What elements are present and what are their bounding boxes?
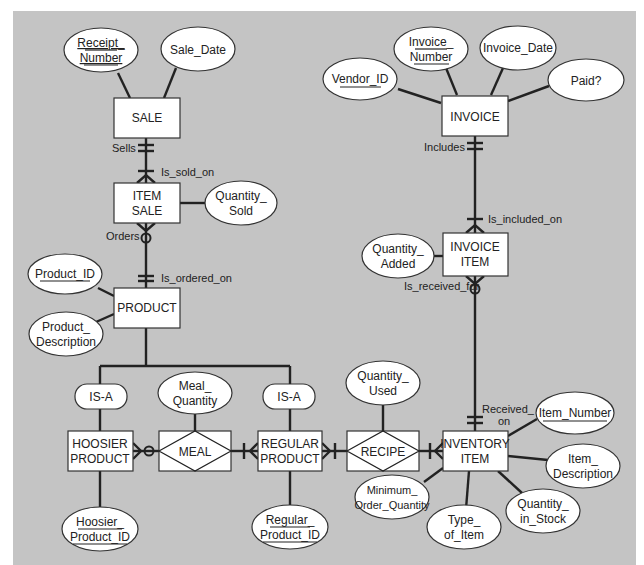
svg-text:Paid?: Paid?: [571, 74, 602, 88]
entity-sale[interactable]: SALE: [114, 98, 180, 138]
svg-text:Number: Number: [410, 50, 453, 64]
er-diagram: SALE ITEM SALE PRODUCT HOOSIER PRODUCT R…: [0, 0, 644, 565]
associative-entity-meal[interactable]: MEAL: [159, 431, 231, 471]
attribute-quantity-used[interactable]: Quantity_ Used: [346, 361, 420, 405]
svg-text:Added: Added: [381, 257, 416, 271]
svg-text:Product_ID: Product_ID: [260, 528, 320, 542]
attribute-quantity-sold[interactable]: Quantity_ Sold: [205, 181, 277, 225]
attribute-quantity-in-stock[interactable]: Quantity_ in_Stock: [506, 489, 580, 533]
label-received-on-2: on: [498, 415, 510, 427]
svg-text:INVOICE: INVOICE: [450, 240, 499, 254]
label-includes: Includes: [424, 141, 465, 153]
isa-left: IS-A: [75, 384, 127, 409]
svg-text:Product_ID: Product_ID: [35, 267, 95, 281]
label-is-sold-on: Is_sold_on: [161, 166, 214, 178]
label-is-included-on: Is_included_on: [488, 213, 562, 225]
svg-text:PRODUCT: PRODUCT: [260, 452, 320, 466]
label-orders: Orders: [106, 230, 140, 242]
entity-hoosier-product[interactable]: HOOSIER PRODUCT: [68, 431, 133, 471]
label-is-ordered-on: Is_ordered_on: [161, 272, 232, 284]
svg-text:Vendor_ID: Vendor_ID: [332, 72, 389, 86]
svg-text:ITEM: ITEM: [461, 255, 490, 269]
svg-text:Quantity_: Quantity_: [517, 497, 569, 511]
attribute-regular-product-id[interactable]: Regular_ Product_ID: [252, 505, 328, 549]
svg-text:Invoice_Date: Invoice_Date: [483, 41, 553, 55]
attribute-quantity-added[interactable]: Quantity_ Added: [362, 234, 434, 278]
label-received-on-1: Received_: [482, 403, 535, 415]
entity-invoice[interactable]: INVOICE: [442, 96, 508, 136]
svg-text:MEAL: MEAL: [179, 445, 212, 459]
attribute-product-description[interactable]: Product_ Description: [29, 312, 103, 356]
svg-text:RECIPE: RECIPE: [361, 445, 406, 459]
diagram-panel: [13, 11, 636, 565]
svg-text:Sold: Sold: [229, 204, 253, 218]
svg-text:Regular_: Regular_: [266, 513, 315, 527]
attribute-product-id[interactable]: Product_ID: [28, 254, 102, 294]
isa-right: IS-A: [263, 384, 315, 409]
svg-text:Description: Description: [553, 467, 613, 481]
svg-text:ITEM: ITEM: [133, 189, 162, 203]
attribute-item-number[interactable]: Item_Number: [536, 392, 614, 434]
svg-text:of_Item: of_Item: [444, 528, 484, 542]
svg-text:Minimum_: Minimum_: [367, 484, 419, 496]
svg-text:Item_Number: Item_Number: [539, 406, 612, 420]
svg-text:REGULAR: REGULAR: [261, 437, 319, 451]
attribute-sale-date[interactable]: Sale_Date: [161, 27, 235, 71]
svg-text:IS-A: IS-A: [89, 390, 112, 404]
attribute-item-description[interactable]: Item_ Description: [546, 444, 620, 488]
svg-text:INVENTORY: INVENTORY: [440, 437, 510, 451]
svg-text:HOOSIER: HOOSIER: [72, 437, 128, 451]
attribute-invoice-date[interactable]: Invoice_Date: [480, 26, 556, 70]
associative-entity-recipe[interactable]: RECIPE: [347, 431, 419, 471]
attribute-hoosier-product-id[interactable]: Hoosier_ Product_ID: [62, 507, 138, 551]
svg-text:Used: Used: [369, 384, 397, 398]
svg-text:Quantity_: Quantity_: [372, 242, 424, 256]
svg-text:PRODUCT: PRODUCT: [70, 452, 130, 466]
svg-text:SALE: SALE: [132, 111, 163, 125]
svg-text:Product_: Product_: [42, 320, 90, 334]
svg-text:Number: Number: [80, 51, 123, 65]
svg-text:Order_Quantity: Order_Quantity: [354, 499, 430, 511]
svg-text:Description: Description: [36, 335, 96, 349]
attribute-paid[interactable]: Paid?: [548, 59, 624, 101]
svg-text:Invoice_: Invoice_: [409, 35, 454, 49]
svg-text:IS-A: IS-A: [277, 390, 300, 404]
svg-text:Receipt_: Receipt_: [77, 36, 125, 50]
entity-item-sale[interactable]: ITEM SALE: [114, 183, 180, 223]
entity-inventory-item[interactable]: INVENTORY ITEM: [440, 431, 510, 471]
svg-text:Sale_Date: Sale_Date: [170, 43, 226, 57]
svg-text:INVOICE: INVOICE: [450, 110, 499, 124]
svg-text:Product_ID: Product_ID: [70, 530, 130, 544]
svg-text:in_Stock: in_Stock: [520, 512, 567, 526]
entity-product[interactable]: PRODUCT: [114, 288, 180, 328]
svg-text:Item_: Item_: [568, 452, 598, 466]
attribute-receipt-number[interactable]: Receipt_ Number: [64, 28, 138, 72]
entity-invoice-item[interactable]: INVOICE ITEM: [443, 233, 508, 276]
svg-text:Quantity_: Quantity_: [215, 189, 267, 203]
label-sells: Sells: [112, 142, 136, 154]
svg-text:Quantity: Quantity: [173, 394, 218, 408]
svg-text:Meal_: Meal_: [179, 379, 212, 393]
attribute-meal-quantity[interactable]: Meal_ Quantity: [158, 372, 232, 414]
svg-text:Quantity_: Quantity_: [357, 369, 409, 383]
svg-text:ITEM: ITEM: [461, 452, 490, 466]
attribute-type-of-item[interactable]: Type_ of_Item: [427, 505, 501, 549]
attribute-vendor-id[interactable]: Vendor_ID: [323, 58, 397, 100]
attribute-invoice-number[interactable]: Invoice_ Number: [394, 27, 468, 71]
attribute-minimum-order-quantity[interactable]: Minimum_ Order_Quantity: [354, 475, 430, 519]
entity-regular-product[interactable]: REGULAR PRODUCT: [258, 431, 322, 471]
label-is-received-for: Is_received_for: [404, 280, 480, 292]
svg-text:Type_: Type_: [448, 513, 481, 527]
svg-text:PRODUCT: PRODUCT: [117, 301, 177, 315]
svg-text:SALE: SALE: [132, 204, 163, 218]
svg-text:Hoosier_: Hoosier_: [76, 515, 124, 529]
